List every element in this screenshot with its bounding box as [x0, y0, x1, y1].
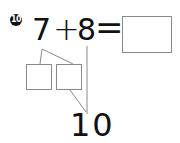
- make-ten-target: 10: [70, 108, 115, 142]
- line-7-to-left-box: [40, 49, 42, 64]
- left-decomposition-box[interactable]: [26, 64, 52, 90]
- line-7-to-right-box: [42, 49, 73, 64]
- right-decomposition-box[interactable]: [56, 64, 82, 90]
